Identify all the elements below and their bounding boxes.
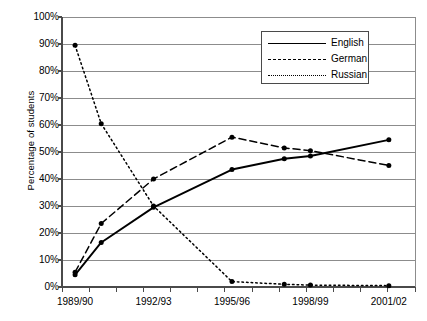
legend-item: German <box>262 52 370 68</box>
legend-line-swatch <box>268 43 326 46</box>
legend-item: Russian <box>262 68 370 84</box>
legend-label: English <box>331 37 364 49</box>
legend-item: English <box>262 36 370 52</box>
legend-line-swatch <box>268 75 326 78</box>
x-axis-tick-label: 2001/02 <box>359 297 419 307</box>
x-axis-tick-label: 1992/93 <box>124 297 184 307</box>
x-axis-tick-label: 1998/99 <box>280 297 340 307</box>
legend-line-swatch <box>268 59 326 62</box>
legend: EnglishGermanRussian <box>261 31 369 84</box>
x-axis-tick-label: 1989/90 <box>45 297 105 307</box>
legend-label: Russian <box>331 69 367 81</box>
x-axis-tick-label: 1995/96 <box>202 297 262 307</box>
line-chart: Percentage of students 100%90%80%70%60%5… <box>0 0 427 321</box>
legend-label: German <box>331 53 367 65</box>
